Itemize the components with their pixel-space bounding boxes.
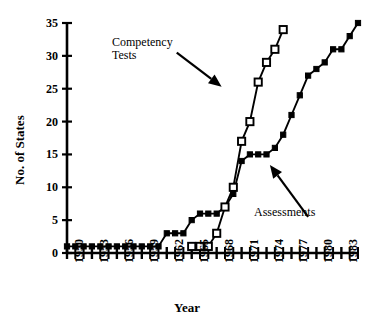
marker-filled-square: [331, 47, 336, 52]
marker-filled-square: [247, 152, 252, 157]
marker-filled-square: [239, 158, 244, 163]
annotation-competency-tests: Competency Tests: [112, 36, 173, 62]
annotation-assessments: Assessments: [254, 206, 315, 219]
marker-filled-square: [281, 132, 286, 137]
marker-open-square: [188, 243, 195, 250]
arrow-competency-tests-head: [208, 75, 222, 87]
marker-filled-square: [214, 211, 219, 216]
marker-filled-square: [306, 73, 311, 78]
x-axis-tick-label: 1956: [122, 239, 137, 263]
marker-filled-square: [355, 20, 360, 25]
marker-open-square: [230, 184, 237, 191]
marker-open-square: [213, 230, 220, 237]
data-series: [64, 20, 360, 250]
marker-filled-square: [189, 218, 194, 223]
annotation-assessments-line1: Assessments: [254, 206, 315, 219]
y-axis-tick-label: 5: [34, 213, 58, 228]
marker-filled-square: [206, 211, 211, 216]
marker-open-square: [246, 118, 253, 125]
x-axis-tick-label: 1971: [247, 239, 262, 263]
x-axis-tick-label: 1983: [346, 239, 361, 263]
x-axis-tick-label: 1950: [72, 239, 87, 263]
x-axis-tick-label: 1959: [147, 239, 162, 263]
y-axis-tick-label: 25: [34, 82, 58, 97]
marker-filled-square: [272, 145, 277, 150]
x-axis-tick-label: 1977: [296, 239, 311, 263]
x-axis-tick-label: 1980: [321, 239, 336, 263]
marker-filled-square: [314, 66, 319, 71]
marker-filled-square: [339, 47, 344, 52]
y-axis-tick-label: 30: [34, 49, 58, 64]
marker-filled-square: [64, 244, 69, 249]
x-axis-title: Year: [174, 300, 200, 316]
y-axis-tick-label: 15: [34, 147, 58, 162]
marker-filled-square: [347, 34, 352, 39]
marker-filled-square: [139, 244, 144, 249]
marker-open-square: [238, 138, 245, 145]
marker-filled-square: [173, 231, 178, 236]
annotation-competency-tests-line2: Tests: [112, 49, 173, 62]
x-axis-tick-label: 1953: [97, 239, 112, 263]
marker-filled-square: [114, 244, 119, 249]
y-axis-tick-label: 0: [34, 246, 58, 261]
marker-filled-square: [264, 152, 269, 157]
axes: [62, 23, 358, 259]
marker-filled-square: [322, 60, 327, 65]
marker-filled-square: [181, 231, 186, 236]
annotation-arrows: [177, 53, 308, 217]
y-axis-tick-label: 20: [34, 115, 58, 130]
marker-filled-square: [89, 244, 94, 249]
y-axis-tick-label: 35: [34, 16, 58, 31]
x-axis-tick-label: 1962: [172, 239, 187, 263]
marker-open-square: [280, 26, 287, 33]
y-axis-tick-label: 10: [34, 180, 58, 195]
arrow-competency-tests-shaft: [177, 53, 212, 79]
marker-open-square: [221, 203, 228, 210]
marker-filled-square: [256, 152, 261, 157]
marker-open-square: [255, 79, 262, 86]
marker-filled-square: [164, 231, 169, 236]
marker-open-square: [263, 59, 270, 66]
marker-filled-square: [297, 93, 302, 98]
marker-filled-square: [197, 211, 202, 216]
x-axis-tick-label: 1965: [197, 239, 212, 263]
x-axis-tick-label: 1974: [272, 239, 287, 263]
chart-figure: No. of States Year 05101520253035 195019…: [0, 0, 371, 322]
y-axis-title: No. of States: [12, 115, 28, 185]
marker-filled-square: [289, 112, 294, 117]
arrow-assessments-head: [270, 165, 282, 179]
x-axis-tick-label: 1968: [222, 239, 237, 263]
marker-open-square: [271, 46, 278, 53]
